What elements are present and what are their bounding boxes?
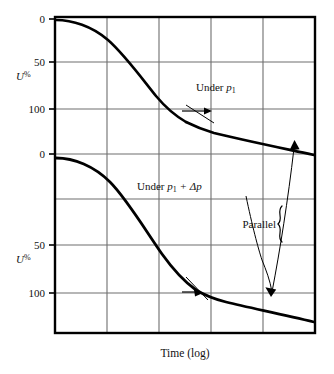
- consolidation-chart: 0 50 100 0 50 100 U% U%: [0, 0, 334, 374]
- ytick-label-upper-100: 100: [29, 103, 46, 115]
- ytick-label-upper-0: 0: [40, 13, 46, 25]
- y-axis-title-lower-percent: %: [24, 253, 31, 262]
- label-under-p1-dp-extra: + Δp: [177, 180, 202, 192]
- label-under-p1-prefix: Under: [196, 81, 226, 93]
- y-axis-title-upper-percent: %: [24, 70, 31, 79]
- ytick-label-lower-0: 0: [40, 148, 46, 160]
- ytick-label-upper-50: 50: [34, 56, 46, 68]
- label-under-p1-subscript: 1: [232, 86, 236, 95]
- label-under-p1-dp: Under p1 + Δp: [137, 180, 202, 194]
- ytick-label-lower-50: 50: [34, 239, 46, 251]
- x-axis-label: Time (log): [160, 347, 209, 360]
- label-under-p1: Under p1: [196, 81, 236, 95]
- label-parallel: Parallel: [242, 218, 276, 230]
- chart-svg: 0 50 100 0 50 100 U% U%: [0, 0, 334, 374]
- label-under-p1-dp-prefix: Under: [137, 180, 167, 192]
- ytick-label-lower-100: 100: [29, 287, 46, 299]
